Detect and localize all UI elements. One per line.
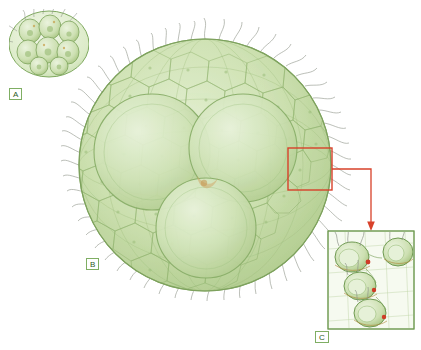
figure-canvas: A B C	[0, 0, 421, 350]
panel-a-early-embryo	[2, 4, 89, 77]
diagram-svg	[0, 0, 421, 350]
callout-arrowhead	[367, 222, 375, 232]
panel-label-c: C	[315, 331, 329, 343]
panel-label-b: B	[86, 258, 99, 270]
daughter-colony-3	[156, 178, 256, 278]
panel-c-detail	[328, 228, 414, 329]
panel-label-a: A	[9, 88, 22, 100]
callout-line	[332, 169, 371, 222]
